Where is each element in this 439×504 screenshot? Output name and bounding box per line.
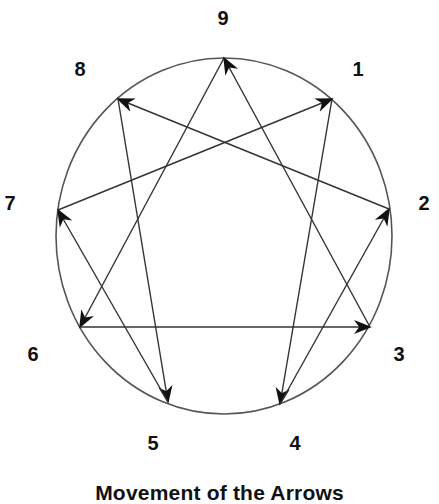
arrow-8-to-5 [118,99,168,402]
point-label-2: 2 [418,192,429,214]
enneagram-circle [56,58,392,414]
point-label-1: 1 [352,58,363,80]
point-label-6: 6 [27,343,38,365]
diagram-caption: Movement of the Arrows [0,481,439,504]
point-label-4: 4 [289,432,301,454]
point-label-9: 9 [217,7,228,29]
point-label-5: 5 [147,432,158,454]
arrow-7-to-1 [58,99,332,210]
arrow-lines [58,58,389,404]
point-label-7: 7 [4,192,15,214]
point-label-8: 8 [74,58,85,80]
point-labels: 912345678 [4,7,429,454]
point-label-3: 3 [393,343,404,365]
